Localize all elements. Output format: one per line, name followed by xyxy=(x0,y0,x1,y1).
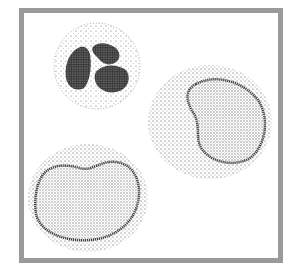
monocyte-left-cell xyxy=(28,144,148,252)
neutrophil-cell xyxy=(54,23,140,109)
monocyte-right-cell xyxy=(148,65,272,179)
blood-cells-illustration xyxy=(0,0,301,272)
